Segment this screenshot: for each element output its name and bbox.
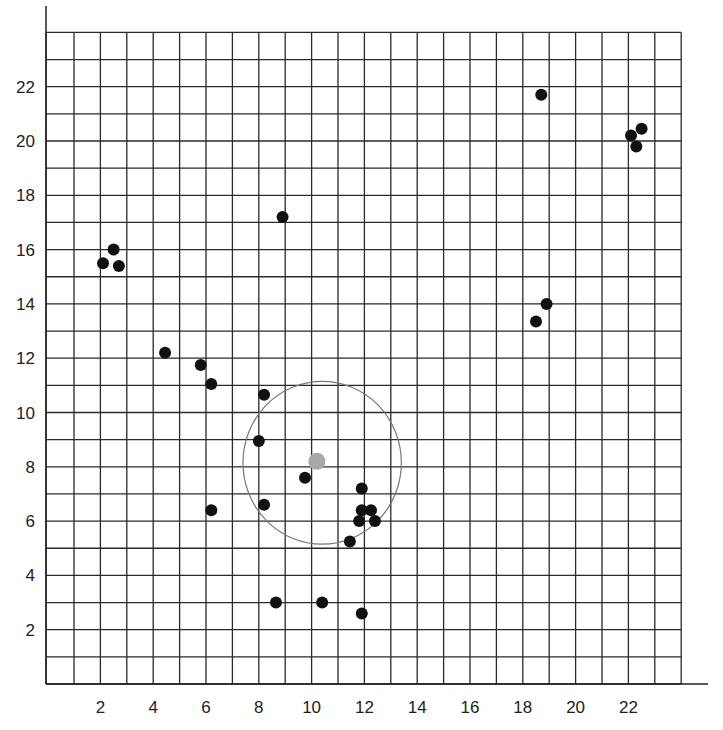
data-point [530,316,542,328]
x-tick-label: 2 [96,698,105,717]
data-point [625,130,637,142]
x-tick-label: 6 [201,698,210,717]
data-point [365,504,377,516]
data-point [636,123,648,135]
data-point [630,140,642,152]
x-axis-tick-labels: 246810121416182022 [96,698,638,717]
y-tick-label: 10 [16,404,35,423]
data-point [316,597,328,609]
y-tick-label: 20 [16,132,35,151]
y-tick-label: 12 [16,349,35,368]
y-tick-label: 4 [26,566,35,585]
x-tick-label: 22 [619,698,638,717]
data-point [205,504,217,516]
data-point [277,211,289,223]
data-point [205,378,217,390]
x-tick-label: 20 [566,698,585,717]
y-tick-label: 8 [26,458,35,477]
y-tick-label: 6 [26,512,35,531]
y-tick-label: 14 [16,295,35,314]
data-point [344,535,356,547]
data-point [253,435,265,447]
grid-lines [46,32,681,684]
x-tick-label: 12 [355,698,374,717]
data-point [353,515,365,527]
y-tick-label: 2 [26,621,35,640]
y-tick-label: 16 [16,241,35,260]
data-point [270,597,282,609]
data-point [535,89,547,101]
data-point [356,607,368,619]
centroid-point [308,453,325,470]
data-point [541,298,553,310]
data-point [113,260,125,272]
x-tick-label: 4 [148,698,157,717]
x-tick-label: 14 [408,698,427,717]
axes [46,6,708,684]
data-point [159,347,171,359]
data-point [356,483,368,495]
data-point [108,244,120,256]
data-point [258,499,270,511]
y-tick-label: 22 [16,78,35,97]
data-point [369,515,381,527]
x-tick-label: 18 [513,698,532,717]
x-tick-label: 16 [461,698,480,717]
scatter-chart: 246810121416182022 246810121416182022 [0,0,723,730]
data-point [299,472,311,484]
data-point [97,257,109,269]
x-tick-label: 8 [254,698,263,717]
y-tick-label: 18 [16,186,35,205]
y-axis-tick-labels: 246810121416182022 [16,78,35,640]
data-point [258,389,270,401]
x-tick-label: 10 [302,698,321,717]
data-point [195,359,207,371]
